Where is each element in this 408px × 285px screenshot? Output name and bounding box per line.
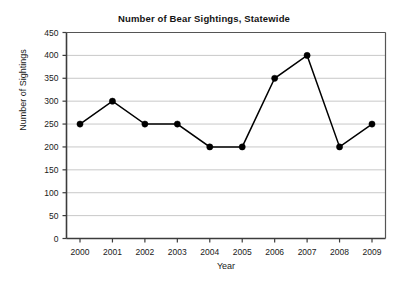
data-point-2003: [174, 121, 180, 127]
data-point-2006: [272, 75, 278, 81]
gridlines: [67, 33, 386, 216]
plot-frame: [67, 33, 386, 239]
y-tick-label: 350: [29, 73, 59, 83]
data-point-2005: [239, 144, 245, 150]
data-point-2000: [77, 121, 83, 127]
y-tick-label: 50: [29, 211, 59, 221]
data-point-2007: [304, 52, 310, 58]
plot-area: [0, 0, 408, 285]
y-tick-label: 150: [29, 165, 59, 175]
y-tick-label: 400: [29, 50, 59, 60]
data-point-2002: [142, 121, 148, 127]
y-tick-label: 450: [29, 28, 59, 38]
chart-figure: Number of Bear Sightings, Statewide Numb…: [0, 0, 408, 285]
y-tick-label: 0: [29, 234, 59, 244]
data-point-2001: [109, 98, 115, 104]
data-point-2009: [369, 121, 375, 127]
y-tick-label: 300: [29, 96, 59, 106]
data-point-2008: [336, 144, 342, 150]
data-point-2004: [207, 144, 213, 150]
y-tick-label: 100: [29, 188, 59, 198]
y-tick-label: 250: [29, 119, 59, 129]
y-tick-label: 200: [29, 142, 59, 152]
x-tick-label: 2009: [352, 247, 392, 257]
